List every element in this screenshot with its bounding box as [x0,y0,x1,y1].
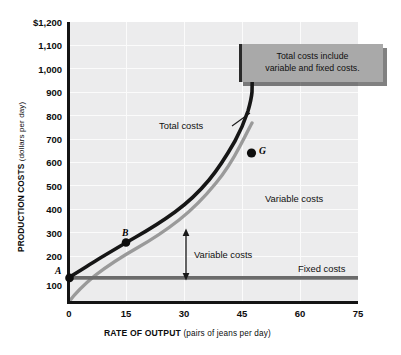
callout-line-2: variable and fixed costs. [265,63,359,75]
x-tick-0: 0 [58,309,80,319]
point-b-marker [122,238,131,247]
point-b-label: B [122,228,128,238]
y-tick-1100: 1,100 [14,41,62,51]
production-costs-chart: $1,200 1,100 1,000 900 800 700 600 500 4… [0,0,401,355]
x-axis-title: RATE OF OUTPUT (pairs of jeans per day) [104,328,271,338]
y-axis-title: PRODUCTION COSTS (dollars per day) [16,102,26,252]
y-tick-1200: $1,200 [14,18,62,28]
fixed-costs-label: Fixed costs [298,264,345,273]
y-tick-200: 200 [14,252,62,262]
y-tick-900: 900 [14,88,62,98]
x-tick-30: 30 [173,309,195,319]
callout-line-1: Total costs include [277,51,349,63]
point-g-label: G [259,146,266,156]
x-tick-45: 45 [231,309,253,319]
point-a-label: A [55,266,61,276]
y-axis-title-main: PRODUCTION COSTS [16,164,26,252]
variable-costs-gap-label: Variable costs [194,250,252,259]
y-tick-100: 100 [14,281,62,291]
x-tick-60: 60 [289,309,311,319]
total-costs-label: Total costs [159,121,203,130]
x-axis-title-unit: (pairs of jeans per day) [183,329,270,338]
x-tick-75: 75 [347,309,369,319]
point-a-marker [65,274,74,283]
y-axis-title-unit: (dollars per day) [17,102,26,162]
point-g-marker [247,148,256,157]
x-tick-15: 15 [115,309,137,319]
callout-box: Total costs include variable and fixed c… [239,44,383,82]
x-axis-title-main: RATE OF OUTPUT [104,328,181,338]
y-tick-1000: 1,000 [14,65,62,75]
variable-costs-curve-label: Variable costs [265,194,323,203]
